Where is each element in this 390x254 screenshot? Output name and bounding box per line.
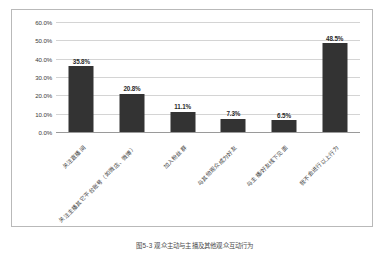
x-axis-category-label: 关注直播间 xyxy=(60,144,87,171)
chart-frame: 0.0%10.0%20.0%30.0%40.0%50.0%60.0%35.8%2… xyxy=(11,9,373,227)
figure-caption: 图5-3 观众主动与主播及其他观众互动行为 xyxy=(0,241,390,254)
y-axis-tick-label: 50.0% xyxy=(35,37,52,44)
x-axis-category-label: 与其他观众成为好友 xyxy=(196,144,239,187)
bar-group[interactable]: 35.8% xyxy=(56,22,107,132)
bar-group[interactable]: 20.8% xyxy=(107,22,158,132)
y-axis-tick-label: 20.0% xyxy=(35,92,52,99)
bar-group[interactable]: 7.3% xyxy=(208,22,259,132)
bar-value-label: 20.8% xyxy=(123,85,140,92)
x-axis-category-label: 我不会进行以上行为 xyxy=(297,144,340,187)
y-axis-tick-label: 0.0% xyxy=(39,129,53,136)
y-axis-tick-label: 40.0% xyxy=(35,55,52,62)
plot-area: 0.0%10.0%20.0%30.0%40.0%50.0%60.0%35.8%2… xyxy=(56,22,360,132)
y-axis-tick-label: 10.0% xyxy=(35,110,52,117)
bar-value-label: 7.3% xyxy=(226,110,240,117)
bar[interactable] xyxy=(69,66,94,132)
x-axis-category-label: 加入粉丝群 xyxy=(162,144,189,171)
bar-group[interactable]: 11.1% xyxy=(157,22,208,132)
bar[interactable] xyxy=(170,112,195,132)
bar-value-label: 48.5% xyxy=(326,35,343,42)
bar[interactable] xyxy=(119,94,144,132)
bar[interactable] xyxy=(221,119,246,132)
bar-group[interactable]: 6.5% xyxy=(259,22,310,132)
y-axis-tick-label: 30.0% xyxy=(35,74,52,81)
bar[interactable] xyxy=(271,120,296,132)
x-axis-category-labels: 关注直播间关注主播其它平台账号（如微店、微博）加入粉丝群与其他观众成为好友与主播… xyxy=(56,144,360,236)
x-axis-baseline: 0.0% xyxy=(56,132,360,133)
bar-value-label: 6.5% xyxy=(277,112,291,119)
y-axis-tick-label: 60.0% xyxy=(35,19,52,26)
x-axis-category-label: 与主播/好友线下见面 xyxy=(245,144,289,188)
bar-group[interactable]: 48.5% xyxy=(309,22,360,132)
bar-value-label: 35.8% xyxy=(73,58,90,65)
bar-value-label: 11.1% xyxy=(174,103,191,110)
bar[interactable] xyxy=(322,43,347,132)
